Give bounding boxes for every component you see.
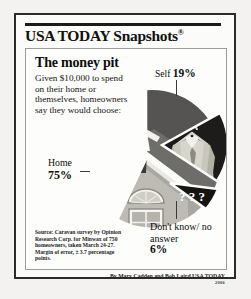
outer-frame: USA TODAY Snapshots® The money pit Given… bbox=[14, 13, 236, 279]
label-home-value: 75% bbox=[48, 169, 72, 181]
snapshot-page: USA TODAY Snapshots® The money pit Given… bbox=[0, 0, 251, 299]
byline-credit: By Mary Cadden and Bob Laird USA TODAY bbox=[110, 273, 225, 279]
chart-panel: The money pit Given $10,000 to spend on … bbox=[25, 48, 227, 270]
credit-year: 2006 bbox=[215, 280, 225, 285]
registered-mark-icon: ® bbox=[178, 28, 184, 37]
masthead-title: USA TODAY Snapshots® bbox=[25, 27, 225, 44]
label-home-name: Home bbox=[48, 157, 72, 168]
label-home: Home75% bbox=[48, 157, 72, 181]
masthead-rule bbox=[25, 23, 221, 26]
label-self: Self 19% bbox=[155, 67, 196, 79]
leader-line-self bbox=[176, 80, 177, 96]
masthead-brand: USA TODAY Snapshots bbox=[25, 27, 178, 44]
label-dont-know: Don't know/ no answer6% bbox=[150, 221, 226, 256]
label-dont-know-name: Don't know/ no answer bbox=[150, 221, 212, 244]
worker-figure-left bbox=[84, 115, 102, 177]
page-title: The money pit bbox=[35, 55, 119, 71]
source-note: Source: Caravan survey by Opinion Resear… bbox=[35, 229, 127, 262]
leader-line-home bbox=[80, 171, 90, 172]
label-self-value: 19% bbox=[173, 67, 196, 79]
pie-chart-illustration: ? ? ? bbox=[84, 85, 227, 235]
label-dont-know-value: 6% bbox=[150, 244, 226, 256]
leader-line-dont-know bbox=[176, 201, 177, 219]
label-self-name: Self bbox=[155, 68, 173, 79]
